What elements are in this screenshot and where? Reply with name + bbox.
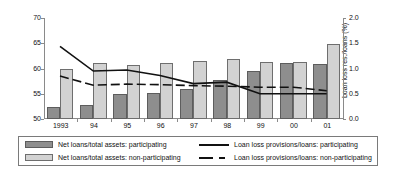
y-axis-right-tick-label: 0.0 — [349, 115, 379, 122]
y-axis-right-tick-label: 1.0 — [349, 65, 379, 72]
y-axis-right-tick-label: 1.5 — [349, 39, 379, 46]
y-axis-right-tick-label: 2.0 — [349, 14, 379, 21]
legend-column-lines: Loan loss provisions/loans: participatin… — [197, 137, 377, 165]
legend-item-nonparticipating-bar: Net loans/total assets: non-participatin… — [25, 151, 197, 164]
y-axis-left-tick — [41, 119, 44, 120]
x-axis-tick-label: 01 — [307, 122, 347, 129]
legend-label-nonparticipating-line: Loan loss provisions/loans: non-particip… — [234, 154, 372, 162]
chart-figure: Net loans/total assets (%) Loan loss res… — [0, 0, 395, 172]
legend-item-participating-bar: Net loans/total assets: participating — [25, 138, 197, 151]
legend-item-participating-line: Loan loss provisions/loans: participatin… — [199, 138, 377, 151]
y-axis-left-tick-label: 60 — [11, 65, 41, 72]
nonparticipating-bar-swatch-icon — [25, 154, 53, 161]
plot-area: 5055606570 0.00.51.01.52.0 1993949596979… — [44, 18, 344, 119]
y-axis-left-tick-label: 55 — [11, 90, 41, 97]
participating-bar-swatch-icon — [25, 141, 53, 148]
legend-label-participating-bar: Net loans/total assets: participating — [58, 141, 167, 149]
legend-label-participating-line: Loan loss provisions/loans: participatin… — [234, 141, 358, 149]
legend-item-nonparticipating-line: Loan loss provisions/loans: non-particip… — [199, 151, 377, 164]
y-axis-right-tick-label: 0.5 — [349, 90, 379, 97]
dashed-line-swatch-icon — [199, 154, 229, 161]
y-axis-right-tick — [343, 119, 346, 120]
y-axis-left-tick-label: 50 — [11, 115, 41, 122]
legend-label-nonparticipating-bar: Net loans/total assets: non-participatin… — [58, 154, 181, 162]
solid-line-swatch-icon — [199, 141, 229, 148]
line-series-group — [44, 18, 344, 119]
chart-legend: Net loans/total assets: participating Ne… — [18, 136, 378, 166]
y-axis-left-tick-label: 70 — [11, 14, 41, 21]
y-axis-left-tick-label: 65 — [11, 39, 41, 46]
legend-column-bars: Net loans/total assets: participating Ne… — [19, 137, 197, 165]
